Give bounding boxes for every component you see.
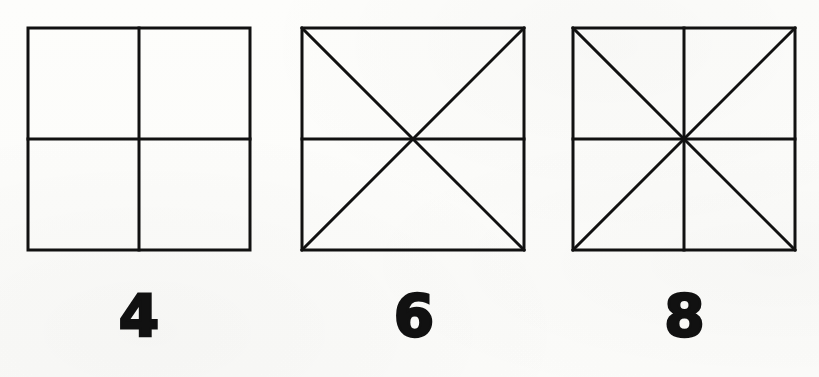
diagram-page: 4 6 8 [0, 0, 819, 377]
square-8-caption: 8 [550, 287, 819, 345]
square-6-graphic [278, 0, 550, 280]
figure-square-8: 8 [550, 0, 819, 377]
square-4-caption: 4 [0, 287, 278, 345]
square-6-caption: 6 [278, 287, 550, 345]
figure-square-4: 4 [0, 0, 278, 377]
square-8-graphic [550, 0, 819, 280]
figure-square-6: 6 [278, 0, 550, 377]
square-4-graphic [0, 0, 278, 280]
